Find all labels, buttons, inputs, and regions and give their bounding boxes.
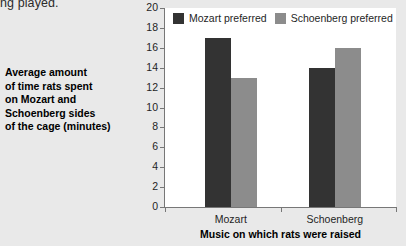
y-axis-tick-label: 20 xyxy=(146,1,158,13)
y-axis-tick-mark xyxy=(160,28,164,29)
y-axis-tick-label: 2 xyxy=(152,180,158,192)
y-axis-tick-label: 6 xyxy=(152,140,158,152)
y-axis-tick-mark xyxy=(160,108,164,109)
y-axis-tick-label: 10 xyxy=(146,101,158,113)
legend-item-mozart-preferred: Mozart preferred xyxy=(173,12,267,24)
chart-legend: Mozart preferred Schoenberg preferred xyxy=(173,12,393,24)
x-axis-tick-mark xyxy=(396,207,397,212)
y-axis-tick-mark xyxy=(160,8,164,9)
y-axis-tick-label: 14 xyxy=(146,61,158,73)
bar-chart: 02468101214161820 MozartSchoenberg Mozar… xyxy=(128,2,400,244)
y-axis-tick-mark xyxy=(160,88,164,89)
bar-mozart-preferred xyxy=(205,38,231,207)
y-axis-tick-mark xyxy=(160,127,164,128)
x-axis-title: Music on which rats were raised xyxy=(165,228,396,240)
y-axis-line xyxy=(164,8,165,208)
bar-group xyxy=(309,8,361,207)
x-axis-tick-label: Schoenberg xyxy=(306,213,363,225)
y-axis-tick-label: 16 xyxy=(146,41,158,53)
clipped-body-text: ng played. xyxy=(0,0,59,10)
plot-area xyxy=(165,8,396,207)
y-axis-tick-label: 4 xyxy=(152,160,158,172)
y-axis-caption-line: Schoenberg sides xyxy=(5,107,125,121)
y-axis-caption: Average amount of time rats spent on Moz… xyxy=(5,66,125,134)
y-axis-tick-label: 12 xyxy=(146,81,158,93)
bar-schoenberg-preferred xyxy=(231,78,257,207)
y-axis-tick-mark xyxy=(160,187,164,188)
legend-label-schoenberg-preferred: Schoenberg preferred xyxy=(291,12,393,24)
y-axis-caption-line: of the cage (minutes) xyxy=(5,120,125,134)
y-axis-tick-mark xyxy=(160,207,164,208)
x-axis-tick-mark xyxy=(165,207,166,212)
legend-item-schoenberg-preferred: Schoenberg preferred xyxy=(275,12,393,24)
y-axis-tick-label: 0 xyxy=(152,200,158,212)
y-axis-tick-label: 18 xyxy=(146,21,158,33)
bar-schoenberg-preferred xyxy=(335,48,361,207)
legend-label-mozart-preferred: Mozart preferred xyxy=(189,12,267,24)
y-axis-tick-mark xyxy=(160,48,164,49)
y-axis-caption-line: of time rats spent xyxy=(5,80,125,94)
legend-swatch-schoenberg-preferred xyxy=(275,13,286,24)
y-axis-tick-mark xyxy=(160,147,164,148)
x-axis-tick-mark xyxy=(281,207,282,212)
bar-mozart-preferred xyxy=(309,68,335,207)
y-axis-tick-label: 8 xyxy=(152,120,158,132)
y-axis-tick-mark xyxy=(160,167,164,168)
y-axis-caption-line: Average amount xyxy=(5,66,125,80)
y-axis-tick-mark xyxy=(160,68,164,69)
x-axis-tick-label: Mozart xyxy=(215,213,247,225)
y-axis-caption-line: on Mozart and xyxy=(5,93,125,107)
legend-swatch-mozart-preferred xyxy=(173,13,184,24)
bar-group xyxy=(205,8,257,207)
